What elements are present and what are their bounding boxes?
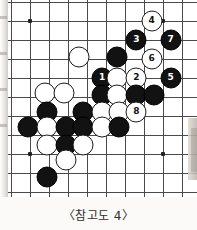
stone-move-number: 8 <box>133 107 139 116</box>
stone-white[interactable] <box>37 134 58 155</box>
stone-move-number: 2 <box>133 73 139 82</box>
stone-black[interactable] <box>37 166 58 187</box>
stone-white[interactable] <box>56 149 77 170</box>
go-board[interactable]: 43761258 <box>0 0 197 197</box>
stone-white[interactable] <box>73 134 94 155</box>
gridline-vertical <box>30 0 31 197</box>
stone-white-move-4[interactable]: 4 <box>141 11 162 32</box>
spine-tick <box>0 88 7 91</box>
stone-black-move-7[interactable]: 7 <box>160 30 181 51</box>
spine-tick <box>0 124 7 127</box>
gridline-horizontal <box>0 2 197 3</box>
gridline-vertical <box>11 0 12 197</box>
spine-tick <box>0 52 7 55</box>
stone-move-number: 3 <box>133 35 139 44</box>
stone-move-number: 6 <box>148 54 154 63</box>
figure-page: 43761258 〈참고도 4〉 <box>0 0 197 230</box>
stone-black[interactable] <box>109 117 130 138</box>
stone-black[interactable] <box>18 117 39 138</box>
gridline-vertical <box>87 0 88 197</box>
gridline-horizontal <box>0 59 197 60</box>
stone-black-move-3[interactable]: 3 <box>126 30 147 51</box>
stone-move-number: 5 <box>167 73 173 82</box>
stone-black-move-5[interactable]: 5 <box>160 68 181 89</box>
stone-white-move-6[interactable]: 6 <box>141 49 162 70</box>
page-spine-shadow <box>0 0 8 197</box>
stone-move-number: 4 <box>148 16 154 25</box>
go-board-grid-area: 43761258 <box>0 0 197 197</box>
stone-white[interactable] <box>35 83 56 104</box>
stone-black[interactable] <box>107 47 128 68</box>
star-point <box>28 152 32 156</box>
page-edge-shadow-inner <box>191 128 197 172</box>
stone-move-number: 7 <box>167 35 173 44</box>
figure-caption: 〈참고도 4〉 <box>0 199 197 230</box>
stone-white[interactable] <box>54 83 75 104</box>
gridline-horizontal <box>0 173 197 174</box>
gridline-horizontal <box>0 192 197 193</box>
stone-move-number: 1 <box>99 73 105 82</box>
gridline-vertical <box>182 0 183 197</box>
star-point <box>161 152 165 156</box>
stone-black[interactable] <box>143 85 164 106</box>
stone-white-move-8[interactable]: 8 <box>126 102 147 123</box>
star-point <box>28 19 32 23</box>
spine-tick <box>0 16 7 19</box>
stone-white[interactable] <box>69 47 90 68</box>
